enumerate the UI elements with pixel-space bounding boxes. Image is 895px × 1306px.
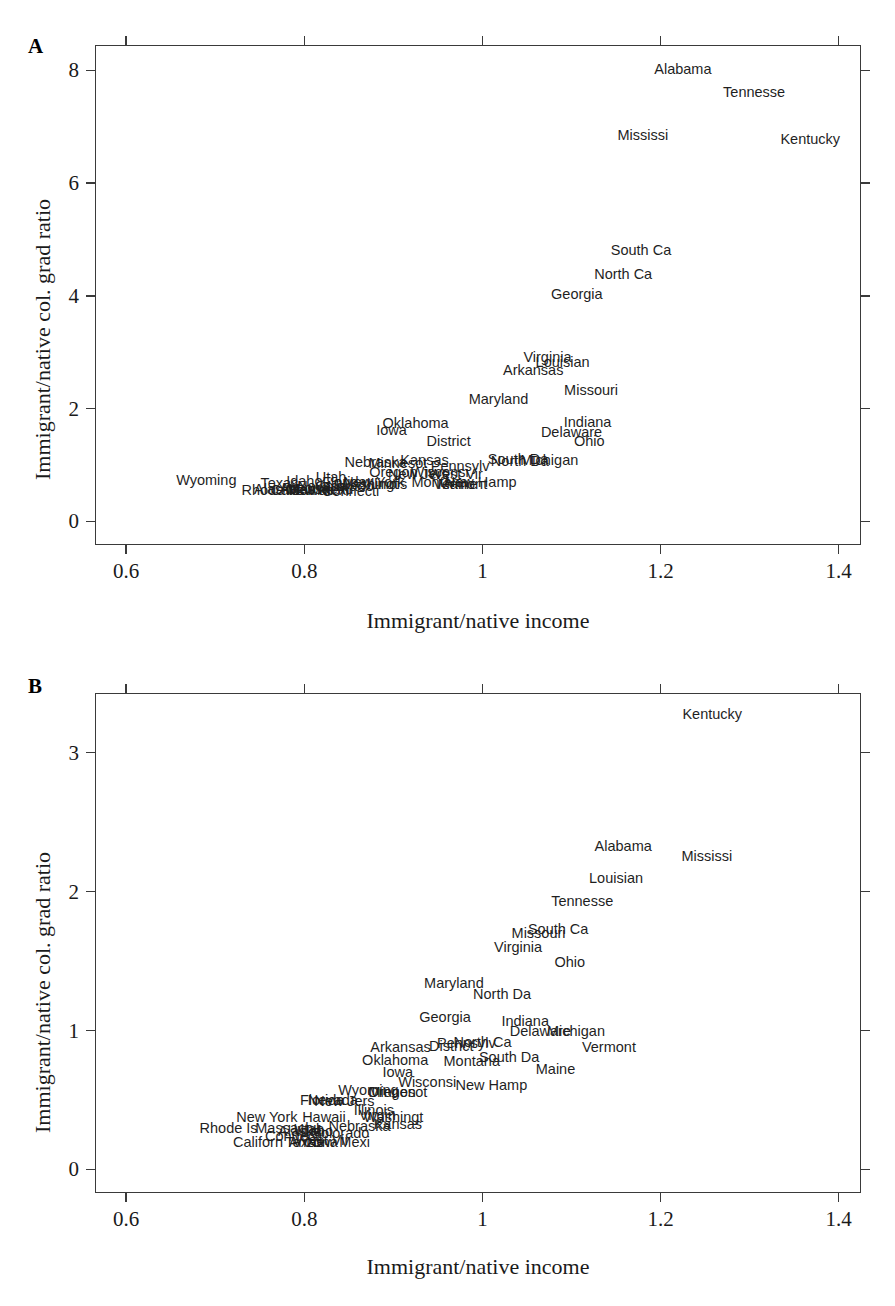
- y-tick-mark-right: [861, 891, 870, 892]
- data-point-label: North Da: [491, 454, 549, 469]
- panel-a-letter: A: [28, 36, 43, 57]
- x-tick-mark-top: [838, 684, 839, 693]
- x-tick-mark: [838, 1193, 839, 1202]
- data-point-label: Oregon: [367, 1084, 415, 1099]
- y-tick-mark: [86, 891, 95, 892]
- x-tick-label: 0.6: [113, 1209, 139, 1230]
- y-tick-mark: [86, 752, 95, 753]
- x-tick-label: 0.8: [291, 561, 317, 582]
- x-tick-label: 0.6: [113, 561, 139, 582]
- x-tick-label: 1.2: [647, 1209, 673, 1230]
- panel-b: B 0.60.811.21.40123 KentuckyAlabamaMissi…: [0, 653, 895, 1306]
- y-tick-label: 8: [37, 60, 79, 81]
- data-point-label: Vermont: [582, 1040, 636, 1055]
- y-tick-label: 0: [37, 511, 79, 532]
- x-tick-mark: [838, 545, 839, 554]
- y-tick-mark-right: [861, 521, 870, 522]
- data-point-label: Tennesse: [551, 894, 613, 909]
- x-tick-label: 1.4: [826, 561, 852, 582]
- x-tick-mark: [660, 1193, 661, 1202]
- data-point-label: Arkansas: [503, 363, 563, 378]
- y-tick-mark-right: [861, 1169, 870, 1170]
- data-point-label: Massachu: [287, 481, 353, 496]
- x-tick-mark-top: [482, 684, 483, 693]
- data-point-label: North Ca: [594, 267, 652, 282]
- panel-b-x-axis-title: Immigrant/native income: [367, 1254, 590, 1280]
- y-tick-label: 3: [37, 742, 79, 763]
- y-tick-mark: [86, 1169, 95, 1170]
- x-tick-mark: [660, 545, 661, 554]
- data-point-label: Mississi: [682, 848, 733, 863]
- x-tick-mark-top: [125, 684, 126, 693]
- data-point-label: Wyoming: [176, 472, 236, 487]
- x-tick-mark: [304, 545, 305, 554]
- x-tick-mark: [482, 545, 483, 554]
- x-tick-mark-top: [304, 684, 305, 693]
- x-tick-mark-top: [304, 36, 305, 45]
- panel-b-letter: B: [28, 676, 42, 697]
- data-point-label: Michigan: [547, 1023, 605, 1038]
- y-tick-label: 0: [37, 1159, 79, 1180]
- x-tick-label: 1: [477, 561, 488, 582]
- data-point-label: Vermont: [433, 477, 487, 492]
- x-tick-mark: [125, 1193, 126, 1202]
- x-tick-mark: [304, 1193, 305, 1202]
- panel-b-plot-frame: [95, 693, 861, 1193]
- data-point-label: Tennesse: [723, 85, 785, 100]
- panel-b-y-axis-title: Immigrant/native col. grad ratio: [30, 852, 56, 1133]
- data-point-label: Kentucky: [780, 132, 840, 147]
- y-tick-mark: [86, 182, 95, 183]
- data-point-label: North Da: [473, 987, 531, 1002]
- data-point-label: Iowa: [376, 423, 407, 438]
- x-tick-mark-top: [125, 36, 126, 45]
- x-tick-label: 1.4: [826, 1209, 852, 1230]
- y-tick-mark-right: [861, 408, 870, 409]
- x-tick-mark-top: [660, 36, 661, 45]
- y-tick-mark: [86, 521, 95, 522]
- data-point-label: Georgia: [419, 1009, 471, 1024]
- data-point-label: Connecti: [265, 1129, 322, 1144]
- data-point-label: Maine: [536, 1062, 576, 1077]
- data-point-label: New Hamp: [456, 1077, 528, 1092]
- y-tick-mark-right: [861, 1030, 870, 1031]
- figure-canvas: A 0.60.811.21.402468 AlabamaTennesseMiss…: [0, 0, 895, 1306]
- x-tick-mark-top: [482, 36, 483, 45]
- x-tick-mark: [482, 1193, 483, 1202]
- data-point-label: Montana: [444, 1054, 500, 1069]
- x-tick-mark: [125, 545, 126, 554]
- panel-a: A 0.60.811.21.402468 AlabamaTennesseMiss…: [0, 0, 895, 653]
- x-tick-mark-top: [660, 684, 661, 693]
- y-tick-mark-right: [861, 295, 870, 296]
- data-point-label: Kentucky: [682, 707, 742, 722]
- data-point-label: Ohio: [574, 434, 605, 449]
- data-point-label: South Ca: [611, 242, 671, 257]
- x-tick-label: 1: [477, 1209, 488, 1230]
- data-point-label: Alabama: [595, 839, 652, 854]
- y-tick-mark: [86, 70, 95, 71]
- y-tick-mark-right: [861, 70, 870, 71]
- data-point-label: Maryland: [469, 392, 529, 407]
- data-point-label: Alabama: [654, 61, 711, 76]
- data-point-label: Louisian: [589, 870, 643, 885]
- data-point-label: Georgia: [551, 287, 603, 302]
- y-tick-mark-right: [861, 752, 870, 753]
- y-tick-label: 6: [37, 173, 79, 194]
- x-tick-label: 0.8: [291, 1209, 317, 1230]
- y-tick-mark: [86, 1030, 95, 1031]
- data-point-label: Missouri: [564, 383, 618, 398]
- y-tick-mark: [86, 295, 95, 296]
- data-point-label: Ohio: [554, 955, 585, 970]
- x-tick-mark-top: [838, 36, 839, 45]
- y-tick-mark: [86, 408, 95, 409]
- data-point-label: District: [426, 433, 470, 448]
- panel-a-y-axis-title: Immigrant/native col. grad ratio: [30, 199, 56, 480]
- panel-a-x-axis-title: Immigrant/native income: [367, 608, 590, 634]
- data-point-label: Virginia: [494, 940, 542, 955]
- data-point-label: District: [429, 1039, 473, 1054]
- x-tick-label: 1.2: [647, 561, 673, 582]
- data-point-label: Mississi: [617, 128, 668, 143]
- y-tick-mark-right: [861, 182, 870, 183]
